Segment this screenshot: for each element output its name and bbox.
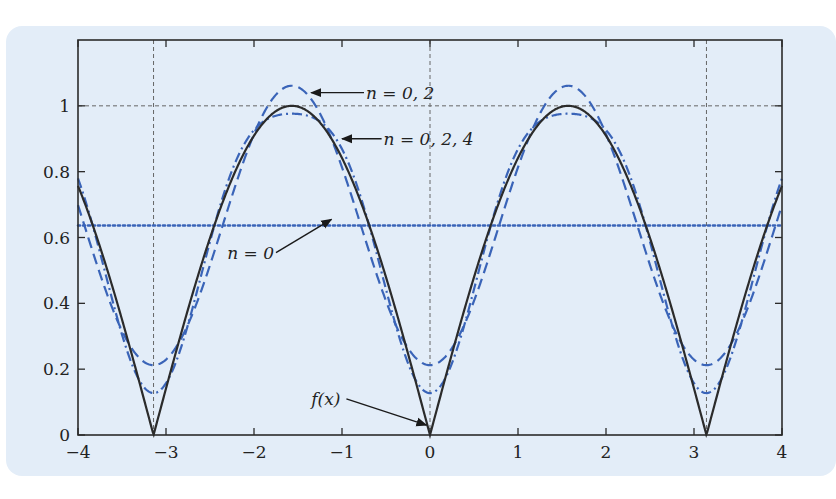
y-tick-label: 0 <box>59 425 70 445</box>
annotations: n = 0, 2 n = 0, 2, 4 n = 0 f(x) <box>227 83 474 425</box>
x-tick-label: 3 <box>689 442 700 462</box>
x-tick-label: 2 <box>601 442 612 462</box>
y-tick-label: 0.2 <box>43 359 70 379</box>
y-tick-label: 1 <box>59 96 70 116</box>
annotation-label-n0: n = 0 <box>227 243 274 263</box>
x-tick-label: −1 <box>329 442 354 462</box>
y-tick-label: 0.4 <box>43 293 70 313</box>
annotation-arrow-fx <box>346 399 426 425</box>
y-tick-labels: 00.20.40.60.81 <box>43 96 70 445</box>
annotation-label-fx: f(x) <box>309 389 340 409</box>
x-tick-label: −4 <box>65 442 90 462</box>
y-tick-label: 0.6 <box>43 228 70 248</box>
x-tick-labels: −4−3−2−101234 <box>65 442 787 462</box>
annotation-label-n024: n = 0, 2, 4 <box>384 129 474 149</box>
annotation-label-n02: n = 0, 2 <box>366 83 434 103</box>
x-tick-label: 4 <box>777 442 788 462</box>
x-tick-label: 1 <box>513 442 524 462</box>
x-tick-label: −2 <box>241 442 266 462</box>
y-tick-label: 0.8 <box>43 162 70 182</box>
x-tick-label: −3 <box>153 442 178 462</box>
x-tick-label: 0 <box>425 442 436 462</box>
